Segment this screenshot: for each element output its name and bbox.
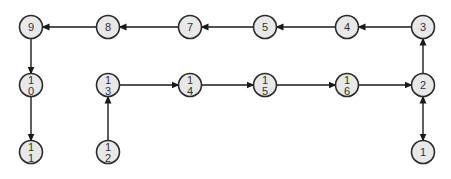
edge-layer xyxy=(31,27,423,141)
node-label: 9 xyxy=(28,21,34,33)
node-label-line2: 6 xyxy=(344,85,350,97)
node-label-line2: 5 xyxy=(262,85,268,97)
node-1: 1 xyxy=(412,141,435,164)
node-9: 9 xyxy=(20,16,43,39)
node-label: 7 xyxy=(187,21,193,33)
node-label: 5 xyxy=(262,21,268,33)
node-15: 15 xyxy=(254,74,277,98)
node-2: 2 xyxy=(412,74,435,97)
node-label: 4 xyxy=(344,21,350,33)
node-layer: 1234578910111213141516 xyxy=(20,16,435,165)
node-5: 5 xyxy=(254,16,277,39)
node-4: 4 xyxy=(336,16,359,39)
node-label: 1 xyxy=(420,146,426,158)
node-label-line2: 1 xyxy=(28,152,34,164)
node-label: 2 xyxy=(420,79,426,91)
graph-canvas: 1234578910111213141516 xyxy=(0,0,451,179)
node-16: 16 xyxy=(336,74,359,98)
node-label-line2: 2 xyxy=(105,152,111,164)
node-14: 14 xyxy=(179,74,202,98)
node-label-line2: 4 xyxy=(187,85,193,97)
node-label: 3 xyxy=(420,21,426,33)
node-label: 8 xyxy=(105,21,111,33)
node-label-line2: 0 xyxy=(28,85,34,97)
node-3: 3 xyxy=(412,16,435,39)
node-7: 7 xyxy=(179,16,202,39)
node-label-line2: 3 xyxy=(105,85,111,97)
node-10: 10 xyxy=(20,74,43,98)
node-11: 11 xyxy=(20,141,43,165)
node-8: 8 xyxy=(97,16,120,39)
node-13: 13 xyxy=(97,74,120,98)
node-12: 12 xyxy=(97,141,120,165)
